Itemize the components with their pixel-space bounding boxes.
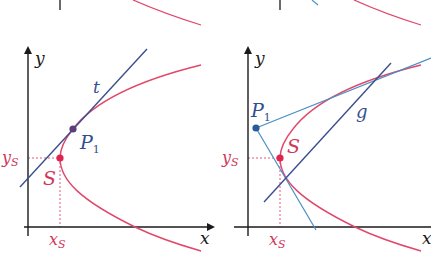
right-x-axis-label: x (422, 228, 431, 248)
left-point-s (56, 154, 63, 161)
right-chord-line-g (264, 63, 391, 202)
left-tangent-line-t (20, 49, 147, 187)
right-p1-letter: P (250, 99, 265, 121)
right-parabola-curve (280, 65, 421, 251)
top-right-line-stub (312, 0, 318, 5)
left-panel: y x t P1 S yS xS (1, 48, 211, 251)
right-p1-subscript: 1 (264, 111, 271, 124)
right-panel: y x g P1 S yS xS (221, 48, 431, 251)
left-p1-label: P1 (79, 131, 100, 156)
diagram-canvas: y x t P1 S yS xS y x g (0, 0, 431, 264)
top-right-curve (354, 0, 421, 25)
left-x-axis-label: x (200, 228, 210, 248)
right-lower-tangent-line (256, 128, 316, 230)
left-point-p1 (69, 125, 76, 132)
left-y-axis-label: y (34, 48, 45, 68)
right-upper-tangent-line (256, 58, 431, 128)
right-point-s (276, 154, 283, 161)
left-vertex-label: S (43, 167, 56, 189)
left-xs-subscript: S (58, 238, 66, 251)
right-ys-subscript: S (231, 156, 239, 169)
top-left-curve (133, 0, 201, 25)
right-chord-label: g (356, 101, 368, 122)
right-point-p1 (252, 124, 259, 131)
right-p1-label: P1 (250, 99, 271, 124)
top-strip (60, 0, 421, 25)
left-p1-subscript: 1 (93, 143, 100, 156)
left-ys-subscript: S (11, 156, 19, 169)
right-y-axis-label: y (254, 48, 265, 68)
right-ys-label: yS (221, 148, 239, 169)
left-tangent-label: t (93, 77, 100, 97)
left-ys-label: yS (1, 148, 19, 169)
right-xs-label: xS (269, 230, 286, 251)
left-xs-letter: x (49, 230, 58, 249)
left-parabola-curve (60, 65, 201, 251)
right-xs-letter: x (269, 230, 278, 249)
left-xs-label: xS (49, 230, 66, 251)
left-p1-letter: P (79, 131, 94, 153)
right-vertex-label: S (287, 135, 300, 157)
right-xs-subscript: S (278, 238, 286, 251)
